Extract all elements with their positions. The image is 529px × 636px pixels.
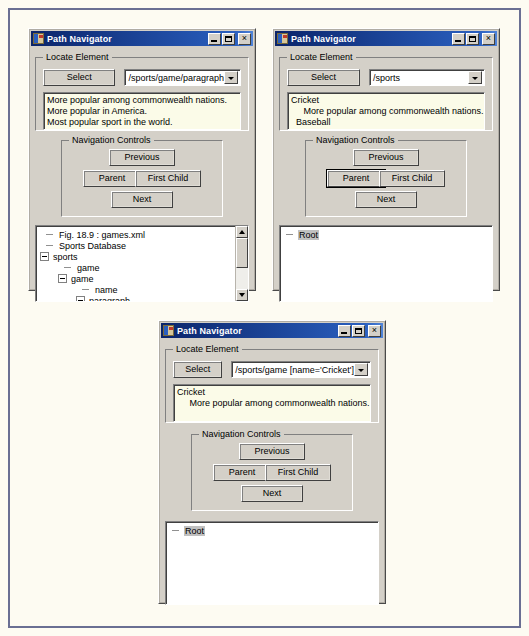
- previous-button[interactable]: Previous: [109, 149, 175, 166]
- tree-node[interactable]: Root: [166, 525, 378, 536]
- close-button[interactable]: ×: [368, 325, 381, 337]
- tree-nodes: Root: [280, 226, 492, 240]
- locate-element-title: Locate Element: [173, 344, 242, 354]
- previous-button[interactable]: Previous: [353, 149, 419, 166]
- titlebar[interactable]: Path Navigator ×: [161, 323, 383, 338]
- navigation-controls-group: Navigation Controls Previous Parent Firs…: [61, 140, 223, 217]
- window-controls: ×: [452, 33, 495, 45]
- previous-button[interactable]: Previous: [239, 443, 305, 460]
- scroll-track[interactable]: [236, 238, 248, 289]
- tree-node-label: name: [94, 285, 119, 295]
- minimize-button[interactable]: [452, 33, 465, 45]
- tree-nodes: Root: [166, 522, 378, 536]
- page-frame-right: [519, 8, 521, 628]
- scroll-up-button[interactable]: [236, 226, 248, 238]
- tree-node[interactable]: name: [36, 284, 248, 295]
- tree-line-icon: [46, 230, 55, 239]
- first-child-button[interactable]: First Child: [265, 464, 331, 481]
- tree-node[interactable]: Root: [280, 229, 492, 240]
- select-button[interactable]: Select: [43, 69, 115, 86]
- window-path-navigator-3[interactable]: Path Navigator × Locate Element Select /…: [158, 320, 386, 604]
- path-combobox[interactable]: /sports: [369, 69, 485, 86]
- locate-element-title: Locate Element: [287, 52, 356, 62]
- result-textbox[interactable]: More popular among commonwealth nations.…: [43, 92, 241, 130]
- path-value: /sports/game/paragraph: [125, 73, 224, 83]
- parent-button[interactable]: Parent: [213, 464, 271, 481]
- window-path-navigator-2[interactable]: Path Navigator × Locate Element Select /…: [272, 28, 500, 291]
- maximize-button[interactable]: [222, 33, 235, 45]
- window-body: Locate Element Select /sports Cricket Mo…: [273, 46, 499, 308]
- tree-node[interactable]: Sports Database: [36, 240, 248, 251]
- locate-element-group: Locate Element Select /sports/game/parag…: [35, 57, 249, 131]
- titlebar[interactable]: Path Navigator ×: [275, 31, 497, 46]
- close-button[interactable]: ×: [238, 33, 251, 45]
- close-button[interactable]: ×: [482, 33, 495, 45]
- window-path-navigator-1[interactable]: Path Navigator × Locate Element Select /…: [28, 28, 256, 291]
- locate-row: Select /sports/game [name='Cricket']: [173, 361, 371, 378]
- path-value: /sports: [370, 73, 468, 83]
- tree-node[interactable]: game: [36, 273, 248, 284]
- page-frame-top: [8, 8, 521, 10]
- parent-button[interactable]: Parent: [327, 170, 385, 187]
- result-line: More popular among commonwealth nations.: [177, 398, 367, 409]
- next-button[interactable]: Next: [111, 191, 173, 208]
- page-frame-left: [8, 8, 10, 628]
- result-textbox[interactable]: Cricket More popular among commonwealth …: [287, 92, 485, 130]
- locate-row: Select /sports/game/paragraph: [43, 69, 241, 86]
- window-body: Locate Element Select /sports/game [name…: [159, 338, 385, 611]
- next-button[interactable]: Next: [241, 485, 303, 502]
- path-value: /sports/game [name='Cricket']: [232, 365, 354, 375]
- collapse-expander-icon[interactable]: [76, 296, 85, 302]
- first-child-button[interactable]: First Child: [379, 170, 445, 187]
- path-combobox[interactable]: /sports/game/paragraph: [124, 69, 241, 86]
- close-icon: ×: [483, 32, 494, 45]
- navigation-buttons: Previous Parent First Child Next: [313, 149, 459, 209]
- navigation-controls-group: Navigation Controls Previous Parent Firs…: [191, 434, 353, 511]
- tree-vertical-scrollbar[interactable]: [235, 226, 248, 301]
- tree-view[interactable]: Root: [279, 225, 493, 302]
- path-combobox[interactable]: /sports/game [name='Cricket']: [231, 361, 371, 378]
- tree-view[interactable]: Root: [165, 521, 379, 605]
- tree-node-label: game: [76, 263, 101, 273]
- page-frame-bottom: [8, 626, 521, 628]
- window-controls: ×: [338, 325, 381, 337]
- next-button[interactable]: Next: [355, 191, 417, 208]
- select-button[interactable]: Select: [173, 361, 222, 378]
- collapse-expander-icon[interactable]: [58, 274, 67, 283]
- parent-button[interactable]: Parent: [83, 170, 141, 187]
- chevron-down-icon[interactable]: [354, 363, 368, 376]
- titlebar[interactable]: Path Navigator ×: [31, 31, 253, 46]
- tree-node[interactable]: sports: [36, 251, 248, 262]
- select-button[interactable]: Select: [287, 69, 360, 86]
- tree-node-label: Sports Database: [58, 241, 127, 251]
- result-line: Cricket: [291, 95, 481, 106]
- minimize-button[interactable]: [338, 325, 351, 337]
- window-title: Path Navigator: [177, 326, 338, 336]
- close-icon: ×: [239, 32, 250, 45]
- locate-element-group: Locate Element Select /sports/game [name…: [165, 349, 379, 423]
- maximize-button[interactable]: [466, 33, 479, 45]
- tree-node[interactable]: Fig. 18.9 : games.xml: [36, 229, 248, 240]
- tree-node-label: game: [70, 274, 95, 284]
- app-icon: [163, 325, 174, 336]
- tree-node-label: sports: [52, 252, 79, 262]
- result-line: More popular among commonwealth nations.: [47, 95, 237, 106]
- chevron-down-icon[interactable]: [224, 71, 238, 84]
- chevron-down-icon[interactable]: [468, 71, 482, 84]
- tree-node[interactable]: paragraph: [36, 295, 248, 302]
- tree-node-label: paragraph: [88, 296, 131, 303]
- maximize-button[interactable]: [352, 325, 365, 337]
- result-line: Cricket: [177, 387, 367, 398]
- screenshot-canvas: Path Navigator × Locate Element Select /…: [0, 0, 529, 636]
- tree-node[interactable]: game: [36, 262, 248, 273]
- collapse-expander-icon[interactable]: [40, 252, 49, 261]
- result-textbox[interactable]: Cricket More popular among commonwealth …: [173, 384, 371, 422]
- first-child-button[interactable]: First Child: [135, 170, 201, 187]
- tree-view[interactable]: Fig. 18.9 : games.xml Sports Database sp…: [35, 225, 249, 302]
- window-controls: ×: [208, 33, 251, 45]
- scroll-thumb[interactable]: [236, 238, 248, 268]
- minimize-button[interactable]: [208, 33, 221, 45]
- navigation-controls-title: Navigation Controls: [313, 135, 398, 145]
- tree-line-icon: [82, 285, 91, 294]
- scroll-down-button[interactable]: [236, 289, 248, 301]
